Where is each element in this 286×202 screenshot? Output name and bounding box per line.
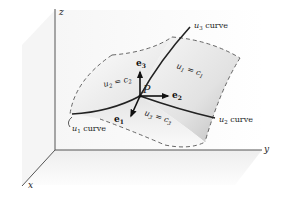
floor-plane xyxy=(22,150,262,185)
u2-curve-label: u2 curve xyxy=(219,115,253,125)
y-axis-label: y xyxy=(263,144,270,154)
point-p-dot xyxy=(139,95,142,98)
z-axis-label: z xyxy=(58,7,64,17)
u3-curve-label: u3 curve xyxy=(194,21,228,31)
diagram-svg: z y x P e3 e2 e1 u3 curve u2 curve u1 cu… xyxy=(0,0,286,202)
x-axis-label: x xyxy=(28,180,33,190)
u1-curve-label: u1 curve xyxy=(72,124,106,134)
point-p-label: P xyxy=(142,83,151,96)
coordinate-diagram: z y x P e3 e2 e1 u3 curve u2 curve u1 cu… xyxy=(0,0,286,202)
